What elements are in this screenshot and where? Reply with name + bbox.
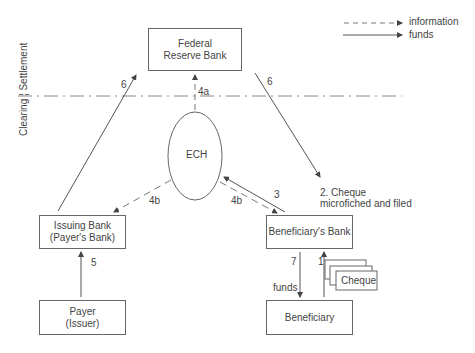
beneficiary-label: Beneficiary xyxy=(285,312,334,324)
edge-6-left xyxy=(58,75,136,211)
step-2-label-line2: microfiched and filed xyxy=(320,198,412,210)
clearing-settlement-label: Clearing ¦ Settlement xyxy=(18,43,29,136)
issuing-bank-box: Issuing Bank (Payer's Bank) xyxy=(39,215,126,249)
edge-4b-left xyxy=(114,180,171,212)
edge-6-right xyxy=(255,73,320,177)
clearing-label: Clearing xyxy=(18,99,29,136)
issuing-bank-line2: (Payer's Bank) xyxy=(50,232,115,244)
payer-line1: Payer xyxy=(66,306,100,318)
step-7-funds-label: funds xyxy=(273,282,297,294)
step-3-label: 3 xyxy=(274,189,280,201)
ech-label: ECH xyxy=(186,149,207,161)
beneficiary-bank-box: Beneficiary's Bank xyxy=(266,215,353,249)
settlement-label: Settlement xyxy=(18,43,29,91)
legend-funds-label: funds xyxy=(409,29,433,41)
step-6-right-label: 6 xyxy=(267,76,273,88)
beneficiary-bank-label: Beneficiary's Bank xyxy=(269,226,351,238)
edge-4b-right xyxy=(220,182,277,213)
step-5-label: 5 xyxy=(91,257,97,269)
step-4b-left-label: 4b xyxy=(149,195,160,207)
step-6-left-label: 6 xyxy=(121,79,127,91)
beneficiary-box: Beneficiary xyxy=(266,300,353,335)
legend-information-label: information xyxy=(409,16,458,28)
divider-separator: ¦ xyxy=(18,91,29,96)
step-7-label: 7 xyxy=(291,256,297,268)
step-4b-right-label: 4b xyxy=(231,195,242,207)
federal-reserve-line2: Reserve Bank xyxy=(164,50,227,62)
federal-reserve-bank-box: Federal Reserve Bank xyxy=(148,28,242,71)
cheque-label: Cheque xyxy=(341,275,376,287)
step-4a-label: 4a xyxy=(198,86,209,98)
payer-box: Payer (Issuer) xyxy=(39,300,126,335)
payer-line2: (Issuer) xyxy=(66,318,100,330)
issuing-bank-line1: Issuing Bank xyxy=(50,220,115,232)
step-1-label: 1 xyxy=(318,256,324,268)
federal-reserve-line1: Federal xyxy=(164,38,227,50)
